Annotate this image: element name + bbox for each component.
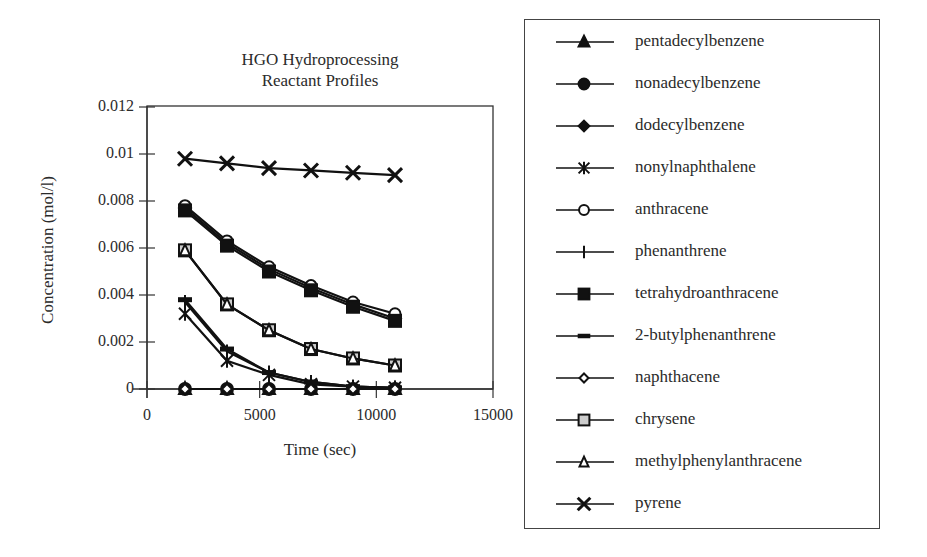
filled-triangle-marker-icon <box>550 28 620 56</box>
legend-label: nonadecylbenzene <box>635 73 761 93</box>
legend-label: nonylnaphthalene <box>635 157 756 177</box>
legend-item: naphthacene <box>525 364 879 394</box>
series-anthracene <box>180 200 401 319</box>
x-tick-label: 10000 <box>336 406 416 424</box>
plot-frame <box>147 106 493 389</box>
chart-title-line2: Reactant Profiles <box>200 70 440 91</box>
legend-item: pentadecylbenzene <box>525 28 879 58</box>
legend-item: methylphenylanthracene <box>525 448 879 478</box>
legend-item: 2-butylphenanthrene <box>525 322 879 352</box>
legend-label: chrysene <box>635 409 695 429</box>
legend-item: phenanthrene <box>525 238 879 268</box>
x-axis-label: Time (sec) <box>250 440 390 460</box>
legend-item: nonylnaphthalene <box>525 154 879 184</box>
series-chrysene <box>179 244 401 371</box>
series-methylphenylanthracene <box>180 244 400 370</box>
legend-label: pyrene <box>635 493 681 513</box>
dash-marker-icon <box>550 322 620 350</box>
legend-item: nonadecylbenzene <box>525 70 879 100</box>
legend-label: phenanthrene <box>635 241 727 261</box>
series-naphthacene <box>180 384 400 394</box>
y-tick-label: 0.012 <box>98 97 134 115</box>
open-triangle-marker-icon <box>550 448 620 476</box>
x-tick-label: 0 <box>107 406 187 424</box>
legend-label: dodecylbenzene <box>635 115 745 135</box>
series-nonylnaphthalene <box>179 307 401 395</box>
filled-diamond-marker-icon <box>550 112 620 140</box>
series-pyrene <box>178 152 402 182</box>
open-diamond-marker-icon <box>550 364 620 392</box>
x-tick-label: 5000 <box>220 406 300 424</box>
legend-label: pentadecylbenzene <box>635 31 764 51</box>
legend-item: pyrene <box>525 490 879 520</box>
y-axis-label: Concentration (mol/l) <box>38 145 58 355</box>
series-layer <box>178 152 402 395</box>
chart-title-line1: HGO Hydroprocessing <box>200 49 440 70</box>
legend-item: anthracene <box>525 196 879 226</box>
y-tick-label: 0.004 <box>98 285 134 303</box>
legend-item: dodecylbenzene <box>525 112 879 142</box>
legend-label: naphthacene <box>635 367 720 387</box>
filled-circle-marker-icon <box>550 70 620 98</box>
legend-label: tetrahydroanthracene <box>635 283 778 303</box>
legend-item: chrysene <box>525 406 879 436</box>
y-tick-label: 0.006 <box>98 238 134 256</box>
y-tick-label: 0.01 <box>106 144 134 162</box>
y-tick-label: 0 <box>126 379 134 397</box>
x-tick-label: 15000 <box>453 406 533 424</box>
legend-label: anthracene <box>635 199 709 219</box>
plus-marker-icon <box>550 238 620 266</box>
legend: pentadecylbenzenenonadecylbenzenedodecyl… <box>524 19 880 529</box>
legend-item: tetrahydroanthracene <box>525 280 879 310</box>
asterisk-marker-icon <box>550 154 620 182</box>
y-tick-label: 0.008 <box>98 191 134 209</box>
gray-square-marker-icon <box>550 406 620 434</box>
filled-square-marker-icon <box>550 280 620 308</box>
chart-title: HGO Hydroprocessing Reactant Profiles <box>200 49 440 91</box>
open-circle-marker-icon <box>550 196 620 224</box>
y-tick-label: 0.002 <box>98 332 134 350</box>
legend-label: 2-butylphenanthrene <box>635 325 776 345</box>
x-marker-icon <box>550 490 620 518</box>
legend-label: methylphenylanthracene <box>635 451 802 471</box>
